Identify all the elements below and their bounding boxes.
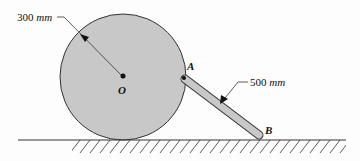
- radius-label: 300 mm: [17, 11, 52, 23]
- rod-length-label: 500 mm: [250, 76, 285, 88]
- rod-ab: [185, 79, 259, 135]
- label-b: B: [265, 124, 272, 136]
- center-point-o: [121, 74, 126, 79]
- ground-hatch: [70, 140, 350, 153]
- radius-value: 300: [17, 11, 34, 23]
- mechanics-figure: [0, 0, 360, 161]
- label-a: A: [187, 60, 194, 72]
- rod-length-value: 500: [250, 76, 267, 88]
- rod-length-unit: mm: [269, 76, 285, 88]
- radius-unit: mm: [36, 11, 52, 23]
- point-a-dot: [182, 76, 186, 80]
- label-o: O: [118, 84, 126, 96]
- rod-dimension: [220, 82, 248, 104]
- diagram-canvas: 300 mm 500 mm O A B: [0, 0, 360, 161]
